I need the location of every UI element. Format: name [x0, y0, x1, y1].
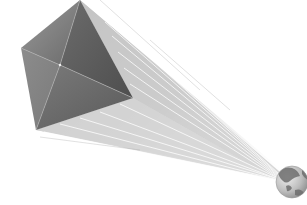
illustration-canvas: [0, 0, 307, 205]
globe-icon: [276, 166, 307, 198]
